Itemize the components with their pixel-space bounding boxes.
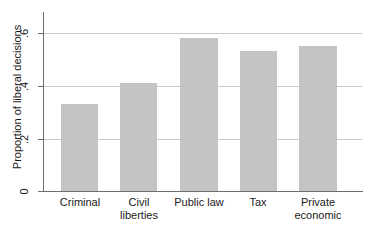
bar-private-economic (299, 46, 337, 191)
x-label-criminal-line-1: Criminal (46, 196, 114, 209)
bar-public-law (180, 38, 218, 191)
x-label-private-economic-line-2: economic (283, 209, 353, 222)
x-label-private-economic-line-1: Private (283, 196, 353, 209)
y-axis-line (43, 12, 44, 192)
y-tick-0.2 (38, 139, 43, 140)
bar-chart: Proportion of liberal decisions .6 .4 .2… (0, 0, 369, 232)
x-label-civil-liberties-line-2: liberties (105, 209, 173, 222)
x-label-private-economic: Private economic (283, 196, 353, 222)
bar-civil-liberties (120, 83, 157, 191)
x-label-criminal: Criminal (46, 196, 114, 209)
y-tick-0.4 (38, 86, 43, 87)
x-axis-line (43, 191, 363, 192)
bar-criminal (61, 104, 98, 191)
y-tick-label-0.6: .6 (19, 22, 30, 46)
x-label-tax: Tax (224, 196, 292, 209)
x-label-civil-liberties: Civil liberties (105, 196, 173, 222)
x-label-civil-liberties-line-1: Civil (105, 196, 173, 209)
gridline-0.6 (44, 33, 362, 34)
y-tick-0.6 (38, 33, 43, 34)
y-tick-label-0: 0 (19, 180, 30, 204)
x-label-tax-line-1: Tax (224, 196, 292, 209)
y-tick-label-0.2: .2 (19, 128, 30, 152)
y-tick-label-0.4: .4 (19, 75, 30, 99)
y-tick-0 (38, 191, 43, 192)
bar-tax (240, 51, 277, 191)
